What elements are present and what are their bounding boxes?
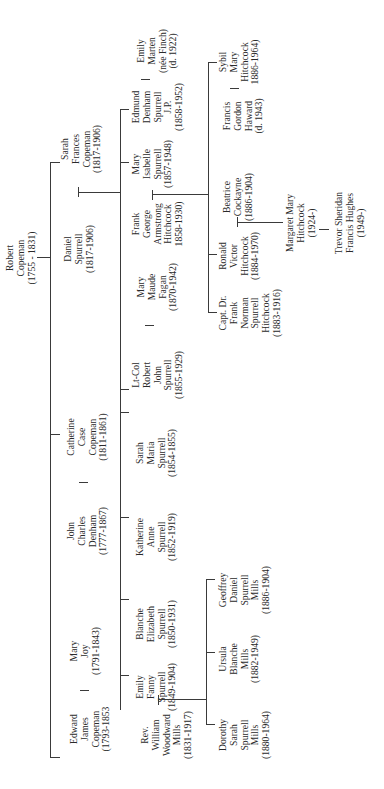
name-line: Fanny [146,663,157,711]
dates-line: (1777-1867) [98,507,109,555]
name-line: Charles [77,507,88,555]
tick-ronald [208,254,217,255]
dates-line: (1793-1853 [101,707,112,752]
person-edward-james-copeman: Edward James Copeman (1793-1853 [69,707,112,752]
tick-edward [50,757,60,758]
person-katherine-anne-spurrell: Katherine Anne Spurrell (1852-1919) [135,513,178,561]
tick-geoffrey [206,579,215,580]
name-line: Marten [147,29,158,73]
tick-emily-fanny [120,675,129,676]
dates-line: (1854-1855) [167,429,178,477]
dates-line: (1886-1904) [244,173,255,221]
person-ronald-victor-hitchcock: Ronald Victor Hitchcock (1884-1970) [218,232,261,280]
marriage-dash-john-catherine [79,482,88,483]
person-capt-dr-frank-norman-spurrell-hitchcock: Capt. Dr. Frank Norman Spurrell Hitchcoc… [218,289,283,337]
name-line: Copeman [16,232,27,285]
dates-line: (1882-1949) [250,635,261,683]
tick-mary-isabelle [120,162,129,163]
person-catherine-case-copeman: Catherine Case Copeman (1811-1861) [66,413,109,461]
name-line: Spurrell [74,225,85,273]
dates-line: (1850-1931) [167,600,178,648]
dates-line: (1880-1964) [261,711,272,759]
dates-line: (1831-1917) [183,711,194,759]
name-line: Mary [229,40,240,85]
person-john-charles-denham: John Charles Denham (1777-1867) [66,507,109,555]
dates-line: (d. 1922) [168,29,179,73]
name-line: William [151,711,162,759]
name-line: Elizabeth [146,600,157,648]
person-sarah-frances-copeman: Sarah Frances Copeman (1817-1906) [60,125,103,173]
person-emily-fanny-spurrell: Emily Fanny Spurrell (1849-1904) [135,663,178,711]
tick-ursula [206,652,215,653]
name-line: Blanche [229,635,240,683]
descent-frank-mary-isabelle [152,194,208,195]
tick-dorothy [206,724,215,725]
marriage-bar-frank-mary-isabelle [152,190,153,200]
dates-line: (1886-1904) [261,566,272,614]
name-line: Robert [142,351,153,399]
dates-line: (1855-1929) [174,351,185,399]
tick-sarah-maria [120,412,129,413]
tick-sarah-frances [50,162,60,163]
dates-line: (1817-1906) [92,125,103,173]
dates-line: (d. 1943) [254,98,265,133]
name-line: Case [77,413,88,461]
descent-daniel-sarah [78,192,120,193]
name-line: Gordon [233,98,244,133]
person-dorothy-sarah-spurrell-mills: Dorothy Sarah Spurrell Mills (1880-1964) [218,711,272,759]
spine-generation-3 [120,110,121,710]
dates-line: (1870-1942) [168,263,179,311]
connector-robert [37,257,50,258]
descent-ronald-beatrice [237,222,283,223]
name-line: Denham [142,83,153,131]
dates-line: (1858-1952) [174,83,185,131]
family-tree-diagram: Robert Copeman (1755 - 1831) Sarah Franc… [0,0,384,789]
marriage-dash-edward-mary [80,690,89,691]
person-francis-gordon-haward: Francis Gordon Haward (d. 1943) [222,98,265,133]
person-edmund-denham-spurrell: Edmund Denham Spurrell J.P. (1858-1952) [131,83,185,131]
dates-line: (1924-) [307,194,318,252]
spine-generation-2 [50,163,51,758]
dates-line: (1811-1861) [98,413,109,461]
person-rev-william-woodward-mills: Rev. William Woodward Mills (1831-1917) [140,711,194,759]
dates-line: (1755 - 1831) [27,232,38,285]
name-line: Joy [80,627,91,675]
person-daniel-spurrell: Daniel Spurrell (1817-1906) [63,225,95,273]
person-margaret-mary-hitchcock: Margaret Mary Hitchcock (1924-) [285,194,317,252]
marriage-dash-francis-sybil [230,88,239,89]
name-line: Frank [229,289,240,337]
dates-line: 1858-1930) [174,202,185,247]
name-line: Francis Hughes [345,192,356,254]
dates-line: (1949-) [356,192,367,254]
dates-line: (1852-1919) [167,513,178,561]
name-line: James [80,707,91,752]
dates-line: (1791-1843) [91,627,102,675]
descent-emily-william [158,699,206,700]
name-line: Frances [71,125,82,173]
tick-lt-col-robert [120,389,129,390]
dates-line: (1817-1906) [85,225,96,273]
person-ursula-blanche-mills: Ursula Blanche Mills (1882-1949) [218,635,261,683]
name-line: Isabelle [142,140,153,188]
name-line: Anne [146,513,157,561]
tick-catherine [50,434,60,435]
person-robert-copeman: Robert Copeman (1755 - 1831) [5,232,37,285]
name-line: Sarah [229,711,240,759]
person-mary-isabelle-spurrell: Mary Isabelle Spurrell (1857-1948) [131,140,174,188]
name-line: Cockayne [233,173,244,221]
person-sarah-maria-spurrell: Sarah Maria Spurrell (1854-1855) [135,429,178,477]
person-trevor-sheridan-francis-hughes: Trevor Sheridan Francis Hughes (1949-) [334,192,366,254]
person-blanche-elizabeth-spurrell: Blanche Elizabeth Spurrell (1850-1931) [135,600,178,648]
person-emily-marten: Emily Marten (née Finch) (d. 1922) [136,29,179,73]
spine-hitchcock-children [208,63,209,313]
name-line: Victor [229,232,240,280]
marriage-dash-edmund-emily [141,79,150,80]
dates-line: (1849-1904) [167,663,178,711]
person-sybil-mary-hitchcock: Sybil Mary Hitchcock 1886-1964) [218,40,261,85]
name-line: Daniel [229,566,240,614]
marriage-dash-robert-mary-maude [145,325,154,326]
descent-margaret [319,229,329,230]
dates-line: (1883-1916) [272,289,283,337]
person-lt-col-robert-john-spurrell: Lt-Col Robert John Spurrell (1855-1929) [131,351,185,399]
person-frank-george-armstrong-hitchcock: Frank George Armstrong Hitchcock 1858-19… [131,202,185,247]
